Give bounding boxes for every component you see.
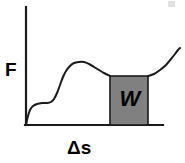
force-displacement-figure: F Δs W	[0, 0, 185, 163]
x-axis-label: Δs	[67, 138, 91, 157]
y-axis-label: F	[5, 60, 17, 79]
force-curve-right-segment	[148, 48, 180, 76]
force-curve-left-segment	[26, 62, 110, 125]
work-area-label: W	[113, 88, 147, 110]
force-curve-group	[26, 48, 180, 125]
plot-canvas	[0, 0, 185, 163]
scan-artifact-icon	[168, 1, 175, 7]
